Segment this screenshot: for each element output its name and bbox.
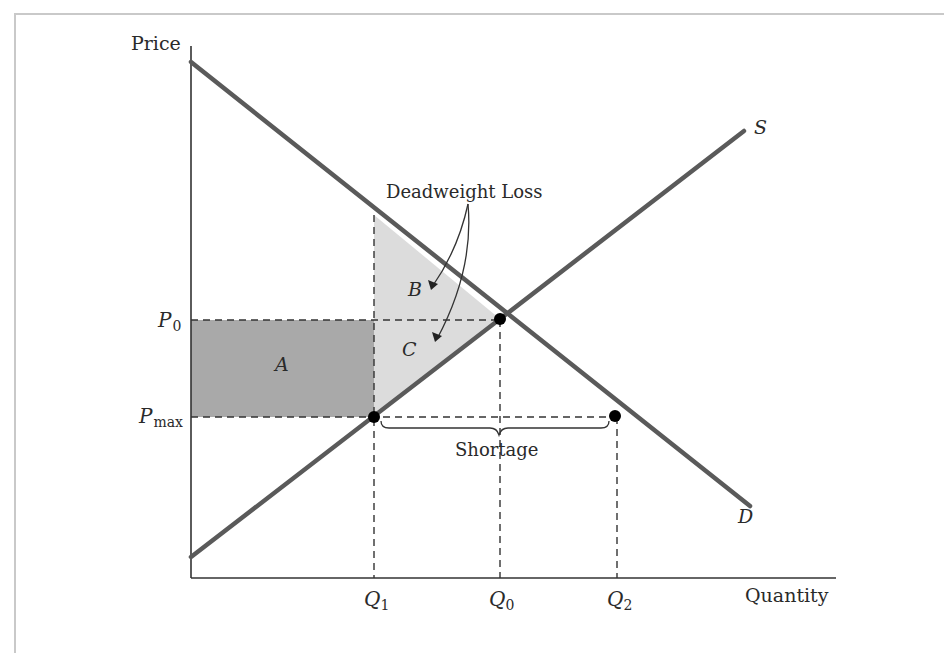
region-b-c-deadweight-loss <box>374 215 500 417</box>
q0-label: Q0 <box>489 587 514 613</box>
region-c-label: C <box>402 338 417 360</box>
shortage-brace <box>381 421 609 435</box>
q2-label: Q2 <box>607 587 632 613</box>
region-b-label: B <box>407 278 422 300</box>
pmax-label: Pmax <box>138 404 183 430</box>
region-a-label: A <box>273 353 289 375</box>
deadweight-loss-label: Deadweight Loss <box>386 181 543 202</box>
y-axis-label: Price <box>131 32 181 54</box>
q2-pmax-point <box>609 410 621 422</box>
p0-label: P0 <box>157 308 181 334</box>
q1-pmax-point <box>368 411 380 423</box>
equilibrium-point <box>494 313 506 325</box>
supply-label: S <box>754 116 767 138</box>
demand-label: D <box>737 505 753 527</box>
q1-label: Q1 <box>364 587 389 613</box>
shortage-label: Shortage <box>455 439 539 460</box>
x-axis-label: Quantity <box>745 584 829 606</box>
